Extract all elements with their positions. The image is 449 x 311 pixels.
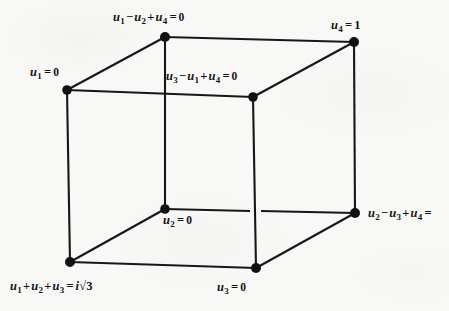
label-term-u2: u2 (368, 206, 380, 220)
label-equals-sign: = (64, 279, 75, 293)
edge-back-top-left-to-back-top-right (165, 37, 354, 42)
label-equals-sign: = (175, 213, 186, 227)
label-value-zero: 0 (53, 66, 59, 78)
label-equals-sign: = (422, 206, 433, 220)
edge-vertical-front-left (67, 90, 70, 262)
label-operator-minus: − (125, 10, 134, 24)
vertex-label-back-top-right: u4=1 (331, 19, 361, 34)
label-equals-sign: = (229, 280, 240, 294)
vertex-label-back-top-left: u1−u2+u4=0 (113, 11, 184, 26)
label-value-zero: 0 (240, 281, 246, 293)
edge-front-bot-left-to-back-bot-left (70, 209, 165, 262)
edge-back-bot-left-to-back-bot-right-b (261, 211, 355, 213)
label-radicand-three: 3 (86, 279, 92, 293)
label-term-u2: u2 (134, 10, 146, 24)
vertex-front-top-right (248, 92, 258, 102)
cube-line-drawing (0, 0, 449, 311)
label-term-u4: u4 (208, 69, 220, 83)
edge-front-bot-right-to-front-bot-left (70, 262, 256, 268)
label-value-one: 1 (354, 18, 360, 32)
edge-back-bot-right-to-front-bot-right (256, 213, 355, 268)
vertex-back-top-left (160, 32, 170, 42)
edge-back-bot-left-to-back-bot-right-a (165, 209, 250, 211)
label-equals-sign: = (343, 18, 354, 32)
label-operator-minus: − (178, 69, 187, 83)
vertex-label-front-bot-right: u3=0 (217, 281, 246, 296)
label-term-u1: u1 (113, 10, 125, 24)
label-equals-sign: = (42, 65, 53, 79)
edge-front-top-left-to-back-top-left (67, 37, 165, 90)
label-term-u1: u1 (187, 69, 199, 83)
label-operator-minus: − (380, 206, 389, 220)
label-value-zero: 0 (232, 70, 238, 82)
vertex-label-front-bot-left: u1+u2+u3=i√3 (10, 280, 93, 295)
vertex-label-front-top-left: u1=0 (30, 66, 59, 81)
vertex-front-bot-right (251, 263, 261, 273)
vertex-label-back-bot-left: u2=0 (163, 214, 192, 229)
vertex-front-bot-left (65, 257, 75, 267)
label-term-u4: u4 (410, 206, 422, 220)
label-term-u4: u4 (331, 18, 343, 32)
cube-figure: u1−u2+u4=0 u4=1 u1=0 u3−u1+u4=0 u2=0 u2−… (0, 0, 449, 311)
label-value-zero: 0 (179, 11, 185, 23)
label-term-u1: u1 (30, 65, 42, 79)
label-equals-sign: = (167, 10, 178, 24)
vertex-label-back-bot-right: u2−u3+u4= (368, 207, 434, 222)
label-value-zero: 0 (186, 214, 192, 226)
edge-vertical-front-right (253, 97, 256, 268)
label-term-u3: u3 (52, 279, 64, 293)
edge-back-top-right-to-front-top-right (253, 42, 354, 97)
vertex-label-front-top-right: u3−u1+u4=0 (166, 70, 237, 85)
label-term-u2: u2 (31, 279, 43, 293)
vertex-back-top-right (349, 37, 359, 47)
vertex-back-bot-right (350, 208, 360, 218)
edge-front-top-right-to-front-top-left (67, 90, 253, 97)
edge-vertical-back-right (354, 42, 355, 213)
label-term-u3: u3 (166, 69, 178, 83)
label-term-u1: u1 (10, 279, 22, 293)
label-equals-sign: = (220, 69, 231, 83)
label-term-u3: u3 (217, 280, 229, 294)
vertex-front-top-left (62, 85, 72, 95)
label-term-u3: u3 (389, 206, 401, 220)
label-term-u2: u2 (163, 213, 175, 227)
label-term-u4: u4 (155, 10, 167, 24)
label-operator-plus: + (22, 279, 31, 293)
